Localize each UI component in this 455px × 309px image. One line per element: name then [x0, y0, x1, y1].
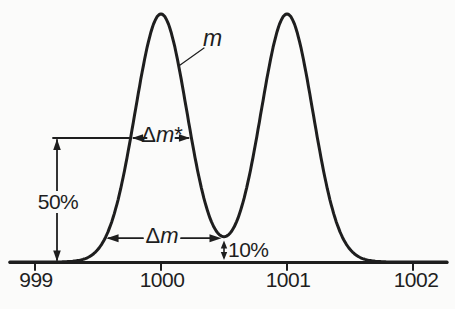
peak-label-leader-line: [179, 48, 204, 66]
valley-width-arrowhead-left: [107, 234, 119, 242]
delta-m-star-label: Δm*: [141, 123, 183, 146]
peak-curve-label: m: [203, 26, 222, 50]
m-glyph: m: [156, 122, 174, 147]
m-glyph: m: [160, 223, 178, 248]
asterisk-glyph: *: [174, 122, 183, 147]
delta-glyph: Δ: [145, 223, 160, 248]
valley-depth-arrowhead-up: [221, 241, 227, 249]
x-tick-label-1001: 1001: [266, 269, 311, 291]
fifty-percent-label: 50%: [36, 191, 81, 213]
x-tick-label-1000: 1000: [140, 269, 185, 291]
half-height-arrowhead-up: [53, 139, 61, 150]
delta-glyph: Δ: [141, 122, 156, 147]
mass-resolution-figure: m Δm* Δm 50% 10% 999 1000 1001 1002: [0, 0, 455, 309]
spectrum-plot-canvas: [0, 0, 455, 309]
ten-percent-label: 10%: [228, 239, 269, 261]
delta-m-label: Δm: [145, 224, 178, 247]
valley-depth-arrowhead-down: [221, 252, 227, 260]
x-tick-label-1002: 1002: [394, 269, 439, 291]
half-height-arrowhead-down: [53, 251, 61, 262]
x-tick-label-999: 999: [19, 269, 53, 291]
